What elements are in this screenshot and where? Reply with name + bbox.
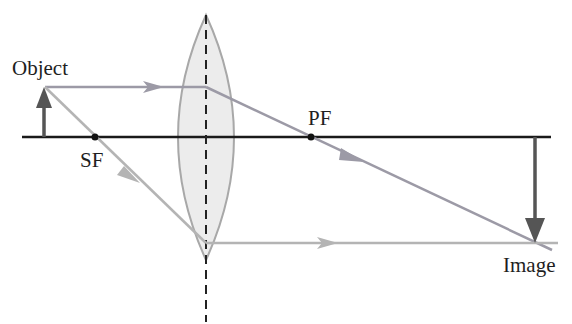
secondary-focus-label: SF (80, 148, 103, 172)
ray-refracted-through-pf (206, 87, 552, 250)
primary-focus-point (308, 134, 315, 141)
secondary-focus-point (92, 134, 99, 141)
ray-refracted-arrowhead-icon (339, 148, 364, 162)
object-label: Object (12, 56, 68, 80)
primary-focus-label: PF (308, 106, 331, 130)
lens-ray-diagram: Object SF PF Image (0, 0, 572, 324)
image-label: Image (503, 253, 555, 277)
